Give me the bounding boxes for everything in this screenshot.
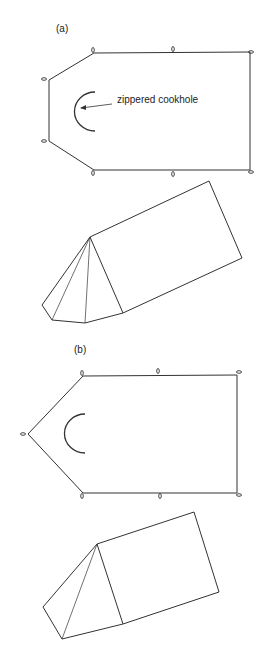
tent-b-pitched [43, 512, 219, 639]
arrow-icon [80, 105, 86, 110]
stake-loop-icons [21, 369, 242, 499]
tent-diagram [0, 0, 261, 671]
cookhole-arc-a [74, 92, 95, 131]
tent-b-floor-plan [21, 369, 242, 499]
cookhole-arc-b [64, 414, 85, 453]
tent-a-pitched [42, 181, 242, 323]
tent-a-floor-plan [42, 47, 254, 177]
